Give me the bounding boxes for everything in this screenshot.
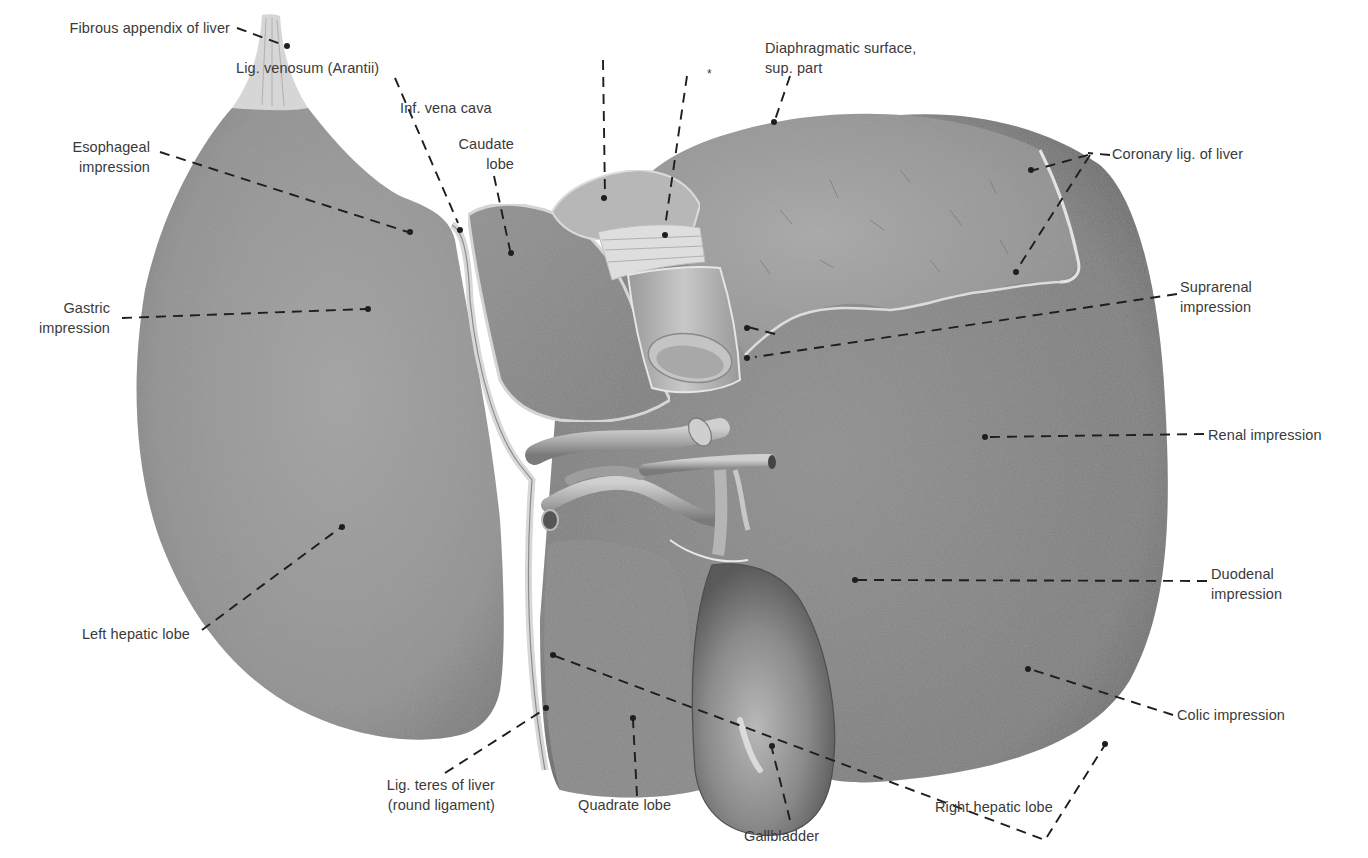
label-left-hepatic-lobe: Left hepatic lobe [20,624,190,644]
label-inf-vena-cava: Inf. vena cava [400,98,492,118]
label-quadrate-lobe: Quadrate lobe [578,795,671,815]
label-gastric-impression: Gastric impression [10,298,110,338]
quadrate-lobe-shape [544,540,700,798]
label-gallbladder: Gallbladder [744,826,819,846]
label-duodenal-impression: Duodenal impression [1211,564,1282,604]
label-esophageal-impression: Esophageal impression [20,137,150,177]
liver-illustration [0,0,1368,858]
label-asterisk: * [707,64,712,84]
liver-diagram: Fibrous appendix of liver Lig. venosum (… [0,0,1368,858]
label-coronary-lig: Coronary lig. of liver [1112,144,1243,164]
label-right-hepatic-lobe: Right hepatic lobe [935,797,1053,817]
label-diaphragmatic-surface: Diaphragmatic surface, sup. part [765,38,916,78]
label-caudate-lobe: Caudate lobe [436,134,514,174]
label-lig-venosum: Lig. venosum (Arantii) [236,58,379,78]
label-suprarenal-impression: Suprarenal impression [1180,277,1252,317]
left-hepatic-lobe-shape [137,108,504,740]
label-renal-impression: Renal impression [1208,425,1322,445]
label-fibrous-appendix: Fibrous appendix of liver [20,18,230,38]
label-lig-teres: Lig. teres of liver (round ligament) [345,775,495,815]
label-colic-impression: Colic impression [1177,705,1285,725]
